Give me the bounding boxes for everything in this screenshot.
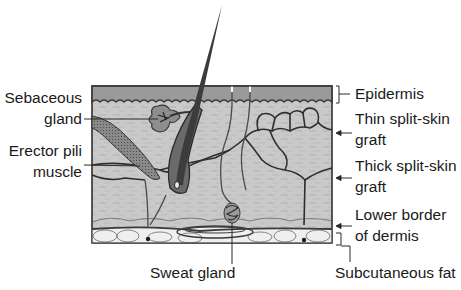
label-thin-line2: graft <box>355 131 450 149</box>
epidermis-bracket <box>336 86 350 103</box>
label-lower-border-of-dermis: Lower border of dermis <box>355 206 446 245</box>
label-sebaceous-line1: Sebaceous <box>0 89 82 107</box>
subcutaneous-bracket <box>336 233 341 245</box>
label-thin-split-skin-graft: Thin split-skin graft <box>355 110 450 149</box>
label-lower-line1: Lower border <box>355 206 446 224</box>
label-epidermis: Epidermis <box>355 85 424 103</box>
label-thin-line1: Thin split-skin <box>355 110 450 128</box>
label-sweat-gland: Sweat gland <box>150 264 235 282</box>
label-erector-line1: Erector pili <box>0 142 82 160</box>
label-lower-line2: of dermis <box>355 227 446 245</box>
epidermis-layer <box>92 86 332 102</box>
label-erector-pili-muscle: Erector pili muscle <box>0 142 82 181</box>
label-sebaceous-gland: Sebaceous gland <box>0 89 82 128</box>
label-erector-line2: muscle <box>0 163 82 181</box>
label-sebaceous-line2: gland <box>0 110 82 128</box>
label-thick-split-skin-graft: Thick split-skin graft <box>355 157 457 196</box>
label-subcutaneous-fat: Subcutaneous fat <box>335 264 456 282</box>
label-thick-line2: graft <box>355 178 457 196</box>
label-thick-line1: Thick split-skin <box>355 157 457 175</box>
